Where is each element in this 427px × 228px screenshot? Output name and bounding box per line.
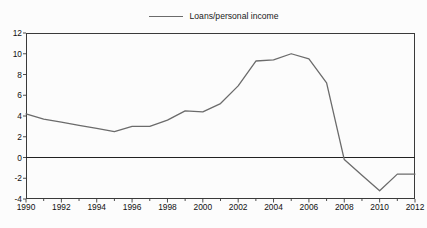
x-axis-tick-label: 1998 <box>150 203 184 211</box>
chart-figure: Loans/personal income 121086420-2-4 1990… <box>0 0 427 228</box>
x-axis-ticks <box>26 199 415 203</box>
chart-canvas <box>0 0 427 228</box>
x-axis-tick-label: 2000 <box>186 203 220 211</box>
x-axis-tick-label: 2008 <box>327 203 361 211</box>
x-axis-tick-label: 2002 <box>221 203 255 211</box>
x-axis-tick-label: 2006 <box>292 203 326 211</box>
data-series-line <box>26 54 415 191</box>
x-axis-tick-label: 2010 <box>363 203 397 211</box>
x-axis-tick-label: 2004 <box>257 203 291 211</box>
x-axis-tick-label: 1992 <box>44 203 78 211</box>
x-axis-tick-label: 1994 <box>80 203 114 211</box>
y-axis-ticks <box>23 33 26 199</box>
x-axis-tick-label: 1996 <box>115 203 149 211</box>
x-axis-tick-label: 2012 <box>398 203 427 211</box>
x-axis-tick-labels: 1990199219941996199820002002200420062008… <box>0 203 427 217</box>
x-axis-tick-label: 1990 <box>9 203 43 211</box>
